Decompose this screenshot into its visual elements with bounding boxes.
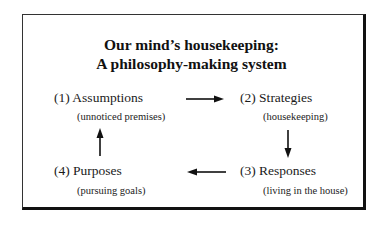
arrows-layer [0, 0, 383, 228]
arrow-right-icon [186, 96, 224, 103]
arrow-down-icon [285, 130, 292, 158]
arrow-left-icon [187, 169, 226, 176]
arrow-up-icon [97, 128, 104, 156]
